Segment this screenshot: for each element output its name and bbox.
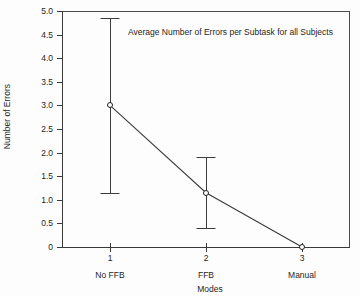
chart-figure: Average Number of Errors per Subtask for…: [0, 0, 360, 296]
error-bar-cap-lower: [197, 228, 216, 229]
data-point-marker: [203, 190, 209, 196]
error-bar-cap-upper: [197, 157, 216, 158]
error-bar-cap-upper: [101, 18, 120, 19]
series-line: [0, 0, 360, 296]
data-point-marker: [299, 244, 305, 250]
data-point-marker: [107, 102, 113, 108]
error-bar-cap-lower: [101, 193, 120, 194]
